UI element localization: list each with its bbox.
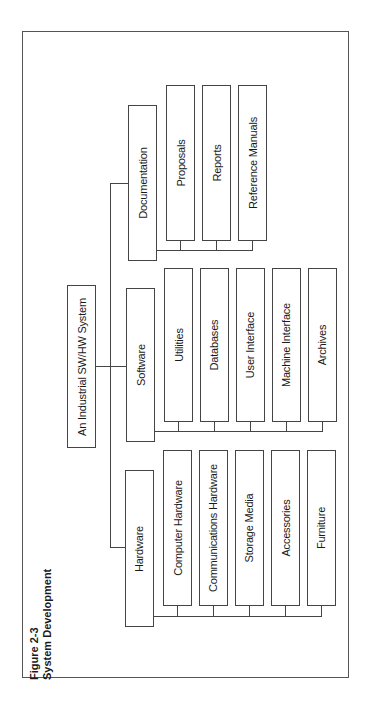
- hardware-drop-2: [213, 605, 214, 616]
- documentation-drop-3: [252, 240, 253, 250]
- node-accessories: Accessories: [271, 450, 300, 606]
- node-databases: Databases: [200, 268, 229, 422]
- node-communications-hardware: Communications Hardware: [199, 450, 228, 606]
- branch-software: Software: [126, 288, 155, 442]
- software-bus: [154, 431, 323, 432]
- figure-title: System Development: [41, 560, 54, 680]
- connector-trunk-software: [110, 366, 126, 367]
- node-utilities: Utilities: [164, 268, 193, 422]
- node-user-interface: User Interface: [236, 268, 265, 422]
- node-proposals: Proposals: [166, 85, 195, 241]
- node-communications-hardware-label: Communications Hardware: [208, 464, 220, 592]
- hardware-bus: [153, 616, 322, 617]
- node-user-interface-label: User Interface: [245, 312, 257, 378]
- software-drop-3: [250, 421, 251, 431]
- node-furniture: Furniture: [307, 450, 336, 606]
- branch-documentation-label: Documentation: [137, 147, 149, 218]
- node-archives: Archives: [308, 268, 337, 422]
- software-drop-1: [178, 421, 179, 431]
- node-reports-label: Reports: [211, 144, 223, 181]
- root-node: An Industrial SW/HW System: [67, 285, 96, 448]
- node-reference-manuals: Reference Manuals: [238, 85, 267, 241]
- node-reference-manuals-label: Reference Manuals: [247, 117, 259, 209]
- node-storage-media: Storage Media: [235, 450, 264, 606]
- node-machine-interface-label: Machine Interface: [281, 303, 293, 387]
- hardware-drop-1: [177, 605, 178, 616]
- figure-caption: Figure 2-3 System Development: [28, 560, 68, 680]
- connector-trunk-hardware: [110, 547, 126, 548]
- documentation-bus: [156, 250, 253, 251]
- hardware-drop-3: [249, 605, 250, 616]
- branch-hardware: Hardware: [125, 470, 154, 627]
- branch-hardware-label: Hardware: [134, 525, 146, 571]
- hardware-drop-5: [321, 605, 322, 616]
- node-computer-hardware-label: Computer Hardware: [172, 480, 184, 576]
- figure-number: Figure 2-3: [28, 560, 41, 680]
- documentation-drop-1: [180, 240, 181, 250]
- hardware-drop-4: [285, 605, 286, 616]
- node-databases-label: Databases: [209, 320, 221, 371]
- node-proposals-label: Proposals: [175, 139, 187, 186]
- software-drop-2: [214, 421, 215, 431]
- node-accessories-label: Accessories: [280, 499, 292, 556]
- node-archives-label: Archives: [317, 325, 329, 366]
- node-computer-hardware: Computer Hardware: [163, 450, 192, 606]
- node-machine-interface: Machine Interface: [272, 268, 301, 422]
- connector-root-trunk: [95, 366, 111, 367]
- connector-trunk-documentation: [110, 183, 128, 184]
- branch-documentation: Documentation: [128, 105, 157, 261]
- node-storage-media-label: Storage Media: [244, 494, 256, 563]
- node-reports: Reports: [202, 85, 231, 241]
- branch-software-label: Software: [135, 344, 147, 386]
- software-drop-5: [322, 421, 323, 431]
- software-drop-4: [286, 421, 287, 431]
- documentation-drop-2: [216, 240, 217, 250]
- node-utilities-label: Utilities: [173, 328, 185, 362]
- root-node-label: An Industrial SW/HW System: [76, 298, 88, 436]
- node-furniture-label: Furniture: [316, 507, 328, 549]
